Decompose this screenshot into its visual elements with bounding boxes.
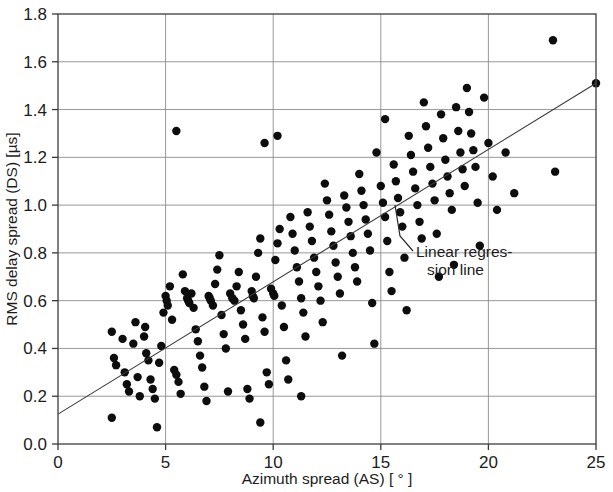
data-point <box>280 323 288 331</box>
data-point <box>260 328 268 336</box>
data-point <box>394 194 402 202</box>
data-point <box>372 148 380 156</box>
data-point <box>202 397 210 405</box>
data-point <box>295 277 303 285</box>
data-point <box>439 134 447 142</box>
data-point <box>288 230 296 238</box>
data-point <box>125 387 133 395</box>
data-point <box>366 246 374 254</box>
data-point <box>275 225 283 233</box>
data-point <box>471 163 479 171</box>
data-point <box>411 184 419 192</box>
y-tick-label-0.2: 0.2 <box>23 387 47 406</box>
data-point <box>306 222 314 230</box>
data-point <box>392 177 400 185</box>
data-point <box>301 332 309 340</box>
data-point <box>364 230 372 238</box>
data-point <box>400 253 408 261</box>
data-point <box>484 139 492 147</box>
data-point <box>415 218 423 226</box>
y-tick-label-0.6: 0.6 <box>23 292 47 311</box>
x-tick-label-25: 25 <box>587 453 606 472</box>
data-point <box>441 156 449 164</box>
data-point <box>467 129 475 137</box>
data-point <box>458 165 466 173</box>
data-point <box>454 127 462 135</box>
data-point <box>359 201 367 209</box>
data-point <box>256 418 264 426</box>
data-point <box>270 292 278 300</box>
data-point <box>123 380 131 388</box>
data-point <box>146 375 154 383</box>
data-point <box>334 273 342 281</box>
data-point <box>133 373 141 381</box>
data-point <box>239 320 247 328</box>
data-point <box>237 306 245 314</box>
data-point <box>108 328 116 336</box>
chart-background <box>0 0 613 492</box>
regression-annotation-line-2: sion line <box>427 261 484 278</box>
y-tick-label-0.0: 0.0 <box>23 435 47 454</box>
data-point <box>353 277 361 285</box>
y-tick-label-1.2: 1.2 <box>23 148 47 167</box>
data-point <box>172 127 180 135</box>
data-point <box>549 36 557 44</box>
data-point <box>243 385 251 393</box>
data-point <box>349 249 357 257</box>
data-point <box>473 199 481 207</box>
data-point <box>355 170 363 178</box>
data-point <box>140 332 148 340</box>
data-point <box>463 84 471 92</box>
scatter-chart-figure: 0510152025 0.00.20.40.60.81.01.21.41.61.… <box>0 0 613 492</box>
x-axis-title: Azimuth spread (AS) [ ° ] <box>242 470 413 487</box>
data-point <box>368 299 376 307</box>
data-point <box>299 308 307 316</box>
data-point <box>209 301 217 309</box>
data-point <box>331 258 339 266</box>
data-point <box>273 132 281 140</box>
data-point <box>271 256 279 264</box>
data-point <box>344 218 352 226</box>
data-point <box>187 289 195 297</box>
data-point <box>263 368 271 376</box>
data-point <box>342 203 350 211</box>
data-point <box>224 387 232 395</box>
data-point <box>422 122 430 130</box>
data-point <box>254 249 262 257</box>
data-point <box>351 263 359 271</box>
data-point <box>118 335 126 343</box>
data-point <box>493 206 501 214</box>
data-point <box>338 351 346 359</box>
y-tick-label-0.4: 0.4 <box>23 339 47 358</box>
data-point <box>424 144 432 152</box>
data-point <box>112 361 120 369</box>
data-point <box>198 363 206 371</box>
data-point <box>437 110 445 118</box>
data-point <box>129 339 137 347</box>
data-point <box>141 323 149 331</box>
data-point <box>153 423 161 431</box>
data-point <box>222 344 230 352</box>
data-point <box>189 304 197 312</box>
data-point <box>448 206 456 214</box>
data-point <box>357 187 365 195</box>
data-point <box>445 189 453 197</box>
data-point <box>379 199 387 207</box>
data-point <box>159 308 167 316</box>
data-point <box>426 163 434 171</box>
data-point <box>108 414 116 422</box>
data-point <box>381 213 389 221</box>
y-tick-label-1.8: 1.8 <box>23 5 47 24</box>
data-point <box>176 390 184 398</box>
data-point <box>340 191 348 199</box>
data-point <box>241 335 249 343</box>
data-point <box>551 167 559 175</box>
data-point <box>282 356 290 364</box>
x-tick-label-0: 0 <box>53 453 62 472</box>
data-point <box>430 196 438 204</box>
data-point <box>200 382 208 390</box>
data-point <box>456 148 464 156</box>
data-point <box>260 139 268 147</box>
data-point <box>336 289 344 297</box>
data-point <box>316 296 324 304</box>
